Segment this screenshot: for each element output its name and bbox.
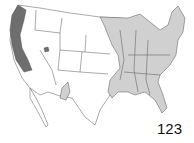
idaho-spot bbox=[44, 47, 49, 52]
map-number-label: 123 bbox=[157, 120, 182, 137]
